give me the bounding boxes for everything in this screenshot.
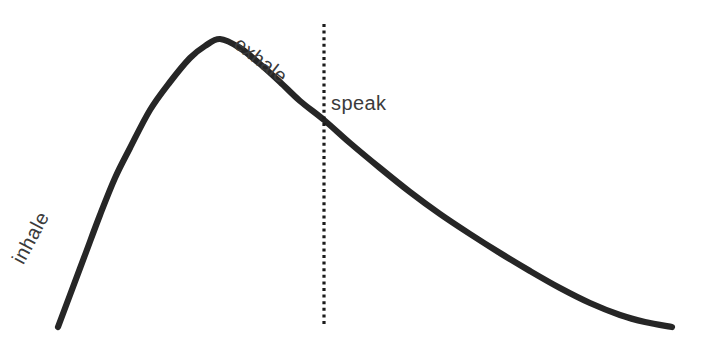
breath-pressure-curve (58, 39, 672, 327)
curve-label-speak: speak (331, 93, 386, 113)
breath-curve-diagram: inhale exhale speak (0, 0, 703, 345)
breath-curve-chart (0, 0, 703, 345)
